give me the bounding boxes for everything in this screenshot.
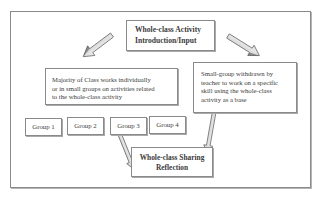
group-4-box: Group 4	[149, 116, 186, 134]
right-box-line-2: teacher to work on a specific	[201, 79, 292, 88]
group-1-box: Group 1	[25, 118, 62, 136]
left-box-line-1: Majority of Class works individually	[52, 76, 177, 85]
left-box-line-2: or in small groups on activities related	[52, 85, 177, 94]
right-box-line-3: skill using the whole-class	[201, 87, 292, 96]
group-2-box: Group 2	[67, 117, 104, 135]
bottom-box-line-1: Whole-class Sharing	[132, 153, 212, 163]
group-3-box: Group 3	[110, 117, 147, 135]
right-box-line-1: Small-group withdrawn by	[201, 70, 292, 79]
whole-class-sharing-box: Whole-class Sharing Reflection	[131, 147, 213, 177]
title-box-line-2: Introduction/Input	[135, 36, 214, 47]
right-box-line-4: activity as a base	[201, 96, 292, 105]
small-group-withdrawn-box: Small-group withdrawn by teacher to work…	[193, 62, 297, 113]
majority-of-class-box: Majority of Class works individually or …	[45, 68, 178, 105]
title-box-line-1: Whole-class Activity	[135, 25, 214, 36]
left-box-line-3: to the whole-class activity	[52, 93, 177, 102]
whole-class-activity-box: Whole-class Activity Introduction/Input	[126, 20, 215, 51]
bottom-box-line-2: Reflection	[132, 163, 212, 173]
